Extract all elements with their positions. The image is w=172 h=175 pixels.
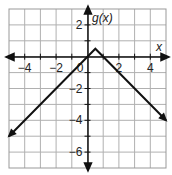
graph: −4−2242−2−4−60 g(x) x xyxy=(0,0,172,175)
y-tick-label: −6 xyxy=(69,145,83,159)
x-axis-label: x xyxy=(155,40,163,54)
y-axis-arrow-down-icon xyxy=(85,163,92,171)
x-axis-arrow-right-icon xyxy=(161,54,169,61)
x-tick-label: −2 xyxy=(49,61,63,75)
y-tick-label: −4 xyxy=(69,113,83,127)
y-axis-label: g(x) xyxy=(92,11,113,25)
x-axis-arrow-left-icon xyxy=(6,54,14,61)
y-tick-label: −2 xyxy=(69,82,83,96)
x-tick-label: −4 xyxy=(18,61,32,75)
x-tick-label: 4 xyxy=(147,61,154,75)
y-axis-arrow-up-icon xyxy=(85,6,92,14)
y-tick-label: 2 xyxy=(76,18,83,32)
